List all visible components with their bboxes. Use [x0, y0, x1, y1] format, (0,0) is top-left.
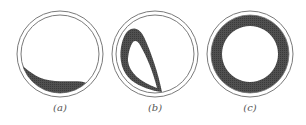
panel-c-label: (c): [230, 102, 270, 113]
panel-a: [17, 11, 103, 100]
panel-b: [112, 11, 198, 97]
stratified-liquid-layer: [18, 62, 96, 100]
panel-a-label: (a): [40, 102, 80, 113]
pipe-inner-wall: [211, 15, 289, 93]
panel-c: [207, 11, 293, 97]
crescent-liquid-loop: [120, 28, 162, 92]
panel-b-label: (b): [135, 102, 175, 113]
